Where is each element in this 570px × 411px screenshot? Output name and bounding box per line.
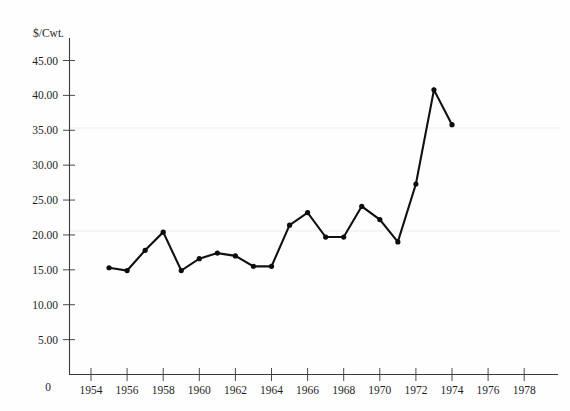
data-point <box>359 204 364 209</box>
y-tick-label: 20.00 <box>32 229 58 241</box>
data-point <box>377 217 382 222</box>
data-point <box>215 250 220 255</box>
data-point <box>197 256 202 261</box>
x-tick-label: 1958 <box>152 384 175 396</box>
data-point <box>269 264 274 269</box>
x-tick-label: 1972 <box>404 384 427 396</box>
data-point <box>287 223 292 228</box>
data-point <box>413 181 418 186</box>
x-tick-label: 1964 <box>260 384 283 396</box>
y-tick-label: 35.00 <box>32 124 58 136</box>
y-tick-label: 45.00 <box>32 55 58 67</box>
x-tick-label: 1962 <box>224 384 247 396</box>
chart-container: 5.0010.0015.0020.0025.0030.0035.0040.004… <box>0 0 570 411</box>
x-tick-label: 1966 <box>296 384 319 396</box>
y-tick-label: 5.00 <box>38 334 58 346</box>
line-chart-plot: 5.0010.0015.0020.0025.0030.0035.0040.004… <box>0 0 570 411</box>
y-tick-label: 30.00 <box>32 159 58 171</box>
x-axis-tick-labels: 1954195619581960196219641966196819701972… <box>80 384 536 396</box>
y-tick-label: 15.00 <box>32 264 58 276</box>
data-point <box>449 122 454 127</box>
x-tick-label: 1968 <box>332 384 355 396</box>
origin-label: 0 <box>45 381 51 393</box>
data-point <box>125 268 130 273</box>
data-point <box>395 239 400 244</box>
y-tick-label: 10.00 <box>32 299 58 311</box>
x-tick-label: 1978 <box>513 384 536 396</box>
data-point <box>179 268 184 273</box>
x-tick-label: 1974 <box>441 384 464 396</box>
y-axis-tick-labels: 5.0010.0015.0020.0025.0030.0035.0040.004… <box>32 55 58 346</box>
data-point <box>143 248 148 253</box>
data-point <box>106 265 111 270</box>
data-point <box>251 264 256 269</box>
x-tick-label: 1956 <box>116 384 139 396</box>
data-point <box>305 210 310 215</box>
faint-background-rules <box>70 128 560 231</box>
data-point <box>161 230 166 235</box>
x-tick-label: 1960 <box>188 384 211 396</box>
data-point <box>323 234 328 239</box>
x-tick-label: 1976 <box>477 384 500 396</box>
data-point <box>431 87 436 92</box>
y-tick-label: 40.00 <box>32 89 58 101</box>
data-point <box>233 253 238 258</box>
x-tick-label: 1970 <box>368 384 391 396</box>
x-tick-label: 1954 <box>80 384 103 396</box>
y-axis-title: $/Cwt. <box>33 27 64 39</box>
data-point <box>341 234 346 239</box>
y-tick-label: 25.00 <box>32 194 58 206</box>
data-series-line <box>109 90 452 271</box>
